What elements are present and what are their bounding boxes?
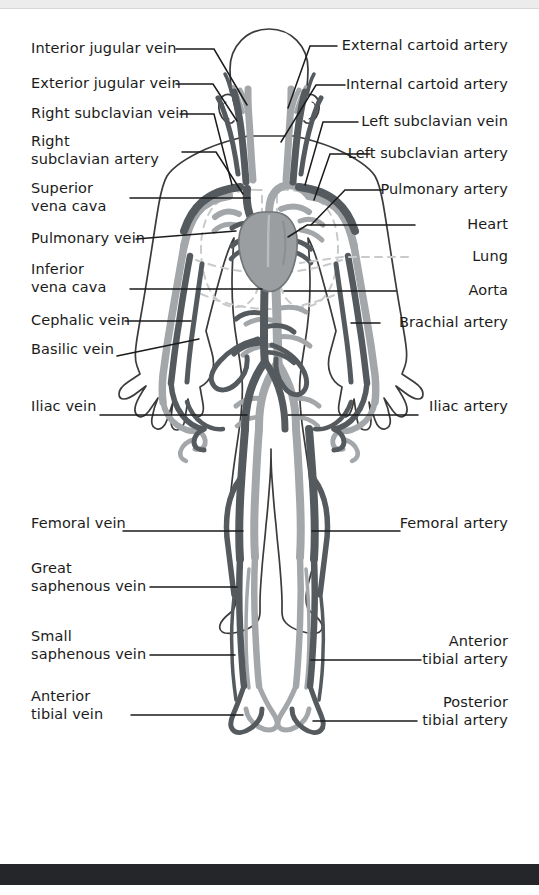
label-superior-vena-cava: Superior vena cava <box>31 180 106 215</box>
label-anterior-tibial-artery: Anterior tibial artery <box>422 633 508 668</box>
label-anterior-tibial-vein: Anterior tibial vein <box>31 688 103 723</box>
label-lung: Lung <box>472 248 508 266</box>
label-right-subclavian-artery: Right subclavian artery <box>31 133 159 168</box>
label-femoral-artery: Femoral artery <box>400 515 508 533</box>
label-pulmonary-artery: Pulmonary artery <box>380 181 508 199</box>
label-right-subclavian-vein: Right subclavian vein <box>31 105 189 123</box>
label-iliac-artery: Iliac artery <box>429 398 508 416</box>
label-internal-cartoid-artery: Internal cartoid artery <box>346 76 508 94</box>
label-external-cartoid-artery: External cartoid artery <box>342 37 508 55</box>
label-posterior-tibial-artery: Posterior tibial artery <box>422 694 508 729</box>
label-cephalic-vein: Cephalic vein <box>31 312 130 330</box>
label-inferior-vena-cava: Inferior vena cava <box>31 261 106 296</box>
label-interior-jugular-vein: Interior jugular vein <box>31 40 176 58</box>
label-exterior-jugular-vein: Exterior jugular vein <box>31 75 181 93</box>
label-left-subclavian-artery: Left subclavian artery <box>348 145 508 163</box>
label-heart: Heart <box>467 216 508 234</box>
label-small-saphenous-vein: Small saphenous vein <box>31 628 146 663</box>
label-iliac-vein: Iliac vein <box>31 398 97 416</box>
label-basilic-vein: Basilic vein <box>31 341 114 359</box>
bottom-strip <box>0 885 539 895</box>
label-femoral-vein: Femoral vein <box>31 515 126 533</box>
label-great-saphenous-vein: Great saphenous vein <box>31 560 146 595</box>
diagram-page: Interior jugular vein Exterior jugular v… <box>0 0 539 895</box>
bottom-bar <box>0 864 539 885</box>
label-aorta: Aorta <box>468 282 508 300</box>
label-pulmonary-vein: Pulmonary vein <box>31 230 145 248</box>
label-brachial-artery: Brachial artery <box>399 314 508 332</box>
label-left-subclavian-vein: Left subclavian vein <box>361 113 508 131</box>
